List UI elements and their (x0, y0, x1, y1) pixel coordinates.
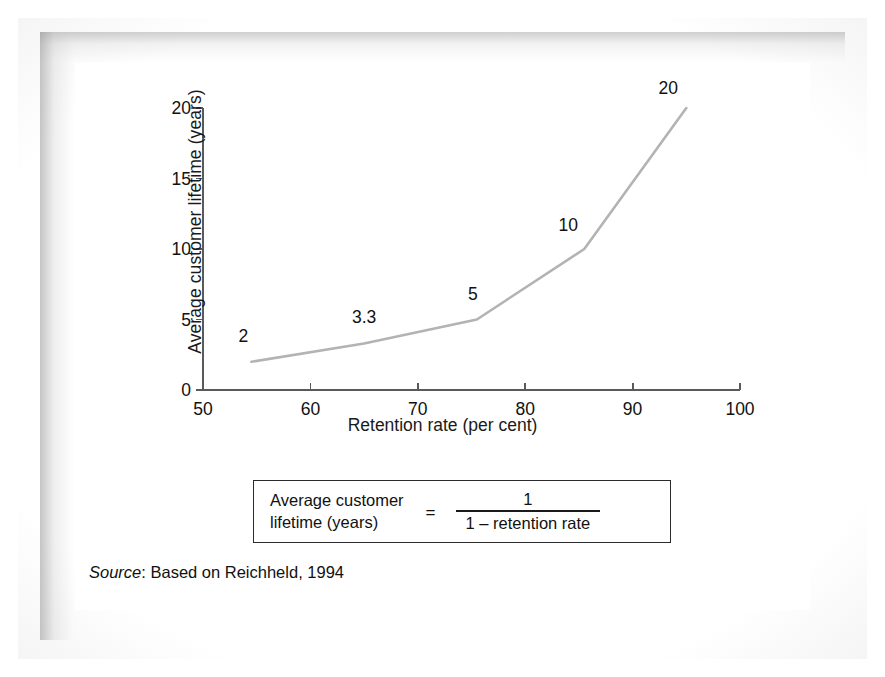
series-line (251, 108, 686, 362)
formula-fraction: 1 1 – retention rate (456, 490, 601, 534)
data-point-label: 5 (468, 283, 478, 304)
data-point-label: 3.3 (352, 307, 376, 328)
chart-axes (196, 108, 740, 390)
formula-lhs-line-1: Average customer (270, 490, 404, 511)
formula-equals-sign: = (404, 503, 456, 523)
data-point-label: 20 (659, 78, 678, 99)
figure-card: Average customer lifetime (years) Retent… (75, 63, 810, 610)
formula-left-hand-side: Average customer lifetime (years) (254, 490, 404, 532)
figure-page: Average customer lifetime (years) Retent… (0, 0, 885, 677)
y-tick-label: 20 (153, 98, 191, 119)
x-tick-label: 90 (623, 399, 642, 420)
source-line: Source: Based on Reichheld, 1994 (89, 563, 344, 582)
y-tick-label: 5 (153, 309, 191, 330)
source-label: Source (89, 563, 141, 581)
formula-denominator: 1 – retention rate (456, 512, 601, 534)
x-tick-label: 100 (725, 399, 754, 420)
y-tick-label: 10 (153, 239, 191, 260)
formula-lhs-line-2: lifetime (years) (270, 512, 404, 533)
data-point-label: 10 (559, 215, 578, 236)
chart-series (251, 108, 686, 362)
x-tick-label: 50 (193, 399, 212, 420)
x-tick-label: 60 (301, 399, 320, 420)
y-tick-label: 0 (153, 380, 191, 401)
x-tick-label: 80 (515, 399, 534, 420)
formula-box: Average customer lifetime (years) = 1 1 … (253, 480, 671, 543)
chart-plot-area: Average customer lifetime (years) Retent… (75, 63, 810, 453)
source-citation: : Based on Reichheld, 1994 (141, 563, 344, 581)
x-axis-title: Retention rate (per cent) (75, 415, 810, 436)
y-tick-label: 15 (153, 168, 191, 189)
formula-numerator: 1 (513, 490, 542, 511)
x-tick-label: 70 (408, 399, 427, 420)
data-point-label: 2 (238, 325, 248, 346)
